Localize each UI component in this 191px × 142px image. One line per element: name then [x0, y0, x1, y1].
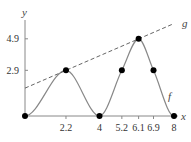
ticks: 2.245.26.16.982.94.9	[7, 33, 177, 133]
curve-label-f: f	[168, 90, 173, 102]
series-f-marker	[171, 113, 177, 119]
chart: x y 2.245.26.16.982.94.9 fg	[0, 0, 191, 142]
markers-layer	[22, 36, 177, 119]
x-tick-label: 5.2	[116, 122, 129, 133]
x-tick-label: 2.2	[60, 122, 73, 133]
series-f-marker	[119, 67, 125, 73]
x-axis-label: x	[180, 110, 186, 122]
y-axis-label: y	[21, 6, 27, 18]
y-tick-label: 4.9	[7, 33, 20, 44]
curve-label-g: g	[182, 17, 188, 29]
series-f-marker	[63, 67, 69, 73]
series-g-line	[25, 24, 174, 89]
x-tick-label: 6.1	[132, 122, 145, 133]
x-tick-label: 8	[172, 122, 177, 133]
axes: x y	[21, 6, 186, 122]
labels-layer: fg	[168, 17, 188, 102]
series-f-marker	[22, 113, 28, 119]
x-tick-label: 4	[97, 122, 102, 133]
y-tick-label: 2.9	[7, 65, 20, 76]
series-f-marker	[97, 113, 103, 119]
series-f-marker	[151, 67, 157, 73]
series-f-marker	[136, 36, 142, 42]
series-f-curve	[25, 39, 174, 116]
x-tick-label: 6.9	[147, 122, 160, 133]
